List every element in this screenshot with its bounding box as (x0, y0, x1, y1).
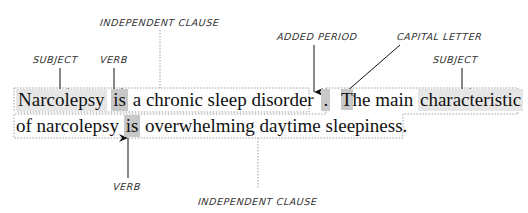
sentence-2-rest: overwhelming daytime sleepiness. (145, 115, 407, 136)
label-subject-1: SUBJECT (32, 54, 78, 65)
sentence-line-2: of narcolepsy is overwhelming daytime sl… (16, 115, 407, 137)
label-independent-clause-top: INDEPENDENT CLAUSE (99, 17, 220, 28)
subject-word-2: characteristic (418, 89, 523, 111)
sentence-2-start: he main (353, 89, 414, 110)
label-added-period: ADDED PERIOD (276, 31, 358, 42)
label-verb-1: VERB (99, 54, 128, 65)
label-capital-letter: CAPITAL LETTER (396, 31, 482, 42)
subject-word-1: Narcolepsy (16, 89, 107, 111)
verb-word-2: is (124, 115, 141, 137)
sentence-line-1: Narcolepsy is a chronic sleep disorder .… (16, 89, 523, 111)
clause-1-rest: a chronic sleep disorder (133, 89, 314, 110)
sentence-2-line-2-start: of narcolepsy (16, 115, 119, 136)
capital-letter: T (341, 89, 353, 110)
label-independent-clause-bottom: INDEPENDENT CLAUSE (197, 196, 318, 207)
label-subject-2: SUBJECT (432, 54, 478, 65)
label-verb-2: VERB (112, 181, 141, 192)
added-period: . (321, 89, 330, 111)
verb-word-1: is (111, 89, 128, 111)
